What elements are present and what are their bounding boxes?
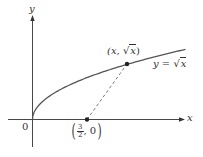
point-axis-label: ( 3 2 , 0 ) [70, 122, 103, 140]
y-axis-label: y [29, 4, 35, 14]
sqrt-function-figure: y x 0 (x, √x) y = √x ( 3 2 , 0 ) [0, 0, 203, 157]
curve-equation-lhs: y = [153, 58, 173, 69]
sqrt-symbol: √x [123, 46, 136, 56]
origin-label: 0 [22, 122, 28, 132]
paren-open: ( [71, 122, 75, 140]
point-curve-radicand: x [129, 44, 136, 56]
x-axis-label: x [187, 113, 193, 123]
curve-equation-label: y = √x [153, 59, 186, 69]
point-curve-label: (x, √x) [107, 46, 140, 56]
point-curve-open: (x, [107, 45, 123, 56]
paren-close: ) [98, 122, 102, 140]
dashed-connector [87, 64, 127, 120]
curve-equation-radicand: x [180, 57, 187, 69]
fraction-denominator: 2 [78, 132, 82, 139]
point-on-curve [125, 62, 129, 66]
sqrt-symbol: √x [173, 59, 186, 69]
point-axis-y: , 0 [84, 126, 97, 136]
y-axis-arrow-icon [30, 15, 34, 21]
point-curve-close: ) [136, 45, 140, 56]
x-axis-arrow-icon [179, 117, 185, 121]
